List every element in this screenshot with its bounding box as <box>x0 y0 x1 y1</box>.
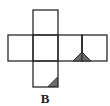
net-cell-top <box>33 10 58 35</box>
option-label: B <box>0 91 90 106</box>
net-cell-left <box>8 35 33 61</box>
net-cell-center <box>33 35 58 61</box>
corner-triangle-icon <box>48 77 58 87</box>
